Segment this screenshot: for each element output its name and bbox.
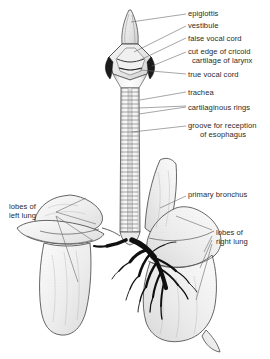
leader-groove — [132, 126, 186, 132]
label-cricoid-line2: cartilage of larynx — [192, 56, 252, 65]
label-lobes-left-line1: lobes of — [9, 202, 36, 211]
leader-cartilaginous-2 — [139, 107, 186, 114]
leader-trachea — [140, 92, 186, 100]
label-lobes-right-line2: right lung — [216, 237, 248, 246]
label-groove-line1: groove for reception — [188, 121, 257, 130]
left-primary-bronchus — [107, 240, 126, 246]
leader-vestibule — [134, 26, 186, 52]
leader-cartilaginous-1 — [139, 106, 186, 108]
label-trachea: trachea — [188, 88, 214, 97]
label-groove-line2: of esophagus — [200, 130, 246, 139]
anatomical-figure: epiglottis vestibule false vocal cord cu… — [0, 0, 270, 359]
label-cricoid-line1: cut edge of cricoid — [188, 47, 251, 56]
label-true-vocal-cord: true vocal cord — [188, 70, 239, 79]
leader-epiglottis — [131, 14, 186, 22]
label-cartilaginous-rings: cartilaginous rings — [188, 103, 250, 112]
leader-cricoid — [152, 52, 186, 66]
label-lobes-left-line2: left lung — [9, 211, 36, 220]
label-primary-bronchus: primary bronchus — [188, 190, 247, 199]
label-false-vocal-cord: false vocal cord — [188, 34, 242, 43]
label-lobes-right-line1: lobes of — [216, 228, 243, 237]
larynx-group — [105, 10, 154, 88]
right-lung-basal-tip — [202, 330, 220, 352]
trachea-group — [120, 88, 140, 245]
label-vestibule: vestibule — [188, 21, 218, 30]
label-epiglottis: epiglottis — [188, 9, 218, 18]
left-lung-hilum — [102, 228, 120, 236]
